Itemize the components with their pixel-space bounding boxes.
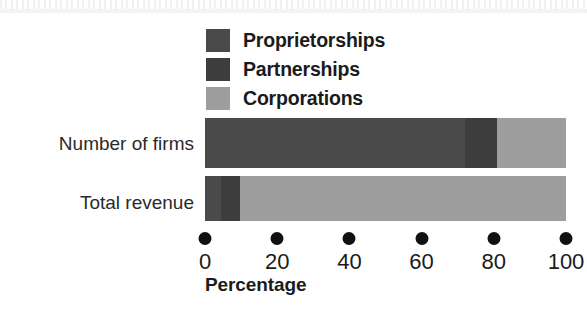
- bar-segment-number-of-firms-proprietorships: [205, 118, 465, 168]
- x-axis-title: Percentage: [205, 274, 306, 296]
- bar-segment-total-revenue-corporations: [240, 176, 566, 221]
- legend-swatch-partnerships: [206, 58, 230, 81]
- legend-item-corporations: Corporations: [206, 84, 385, 113]
- x-axis-tick-dot-80: [487, 232, 500, 245]
- legend-label-corporations: Corporations: [243, 87, 363, 110]
- x-axis-tick-label-0: 0: [199, 249, 211, 275]
- bar-segment-total-revenue-proprietorships: [205, 176, 221, 221]
- plot-area: [205, 118, 566, 221]
- x-axis-tick-dot-0: [199, 232, 212, 245]
- legend-label-proprietorships: Proprietorships: [243, 29, 385, 52]
- bar-number-of-firms: [205, 118, 566, 168]
- x-axis-tick-dot-20: [271, 232, 284, 245]
- x-axis-tick-label-60: 60: [409, 249, 433, 275]
- legend-item-proprietorships: Proprietorships: [206, 26, 385, 55]
- legend-swatch-proprietorships: [206, 29, 230, 52]
- chart-legend: Proprietorships Partnerships Corporation…: [206, 26, 385, 113]
- bar-segment-number-of-firms-corporations: [497, 118, 566, 168]
- bar-segment-total-revenue-partnerships: [221, 176, 240, 221]
- chart-figure: Proprietorships Partnerships Corporation…: [0, 0, 587, 316]
- legend-swatch-corporations: [206, 87, 230, 110]
- bar-segment-number-of-firms-partnerships: [465, 118, 497, 168]
- x-axis-tick-label-100: 100: [548, 249, 585, 275]
- bar-total-revenue: [205, 176, 566, 221]
- legend-label-partnerships: Partnerships: [243, 58, 360, 81]
- x-axis-tick-dot-40: [343, 232, 356, 245]
- category-label-number-of-firms: Number of firms: [44, 133, 194, 155]
- scan-noise-band-lower: [0, 9, 587, 13]
- x-axis-tick-label-20: 20: [265, 249, 289, 275]
- legend-item-partnerships: Partnerships: [206, 55, 385, 84]
- x-axis-tick-label-80: 80: [482, 249, 506, 275]
- category-label-total-revenue: Total revenue: [44, 192, 194, 214]
- x-axis-tick-dot-100: [560, 232, 573, 245]
- scan-noise-band: [0, 0, 587, 9]
- x-axis-tick-label-40: 40: [337, 249, 361, 275]
- x-axis-tick-dot-60: [415, 232, 428, 245]
